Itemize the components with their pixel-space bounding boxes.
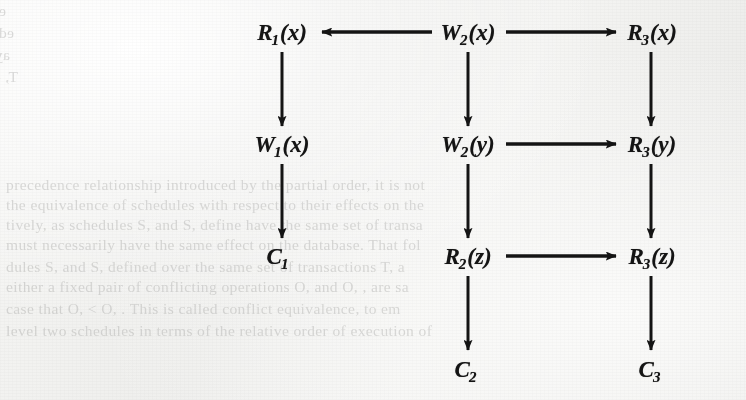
node-subscript: 3 <box>642 32 650 48</box>
node-argument: (y) <box>651 132 677 157</box>
graph-edges-layer <box>0 0 746 400</box>
node-argument: (x) <box>469 20 496 45</box>
graph-node: R2(z) <box>444 244 491 270</box>
node-base: W <box>255 132 275 157</box>
node-subscript: 3 <box>643 256 651 272</box>
precedence-graph-figure: R1(x)W2(x)R3(x)W1(x)W2(y)R3(y)C1R2(z)R3(… <box>0 0 746 400</box>
node-argument: (x) <box>650 20 677 45</box>
graph-node: C1 <box>267 244 290 270</box>
graph-node: R3(x) <box>627 20 677 46</box>
node-base: W <box>441 20 461 45</box>
node-argument: (x) <box>280 20 307 45</box>
graph-node: W2(x) <box>441 20 496 46</box>
node-argument: (z) <box>467 244 491 269</box>
node-subscript: 1 <box>274 144 282 160</box>
node-subscript: 2 <box>469 369 477 385</box>
graph-node: R3(y) <box>628 132 676 158</box>
graph-node: R3(z) <box>628 244 675 270</box>
graph-node: C2 <box>455 357 478 383</box>
graph-node: C3 <box>639 357 662 383</box>
graph-node: W2(y) <box>441 132 494 158</box>
node-base: W <box>441 132 461 157</box>
node-subscript: 2 <box>459 256 467 272</box>
node-subscript: 1 <box>272 32 280 48</box>
node-argument: (y) <box>469 132 495 157</box>
node-subscript: 1 <box>281 256 289 272</box>
node-subscript: 3 <box>653 369 661 385</box>
node-subscript: 3 <box>642 144 650 160</box>
node-argument: (z) <box>651 244 675 269</box>
graph-node: R1(x) <box>257 20 307 46</box>
node-subscript: 2 <box>460 32 468 48</box>
node-subscript: 2 <box>461 144 469 160</box>
graph-node: W1(x) <box>255 132 310 158</box>
node-argument: (x) <box>283 132 310 157</box>
